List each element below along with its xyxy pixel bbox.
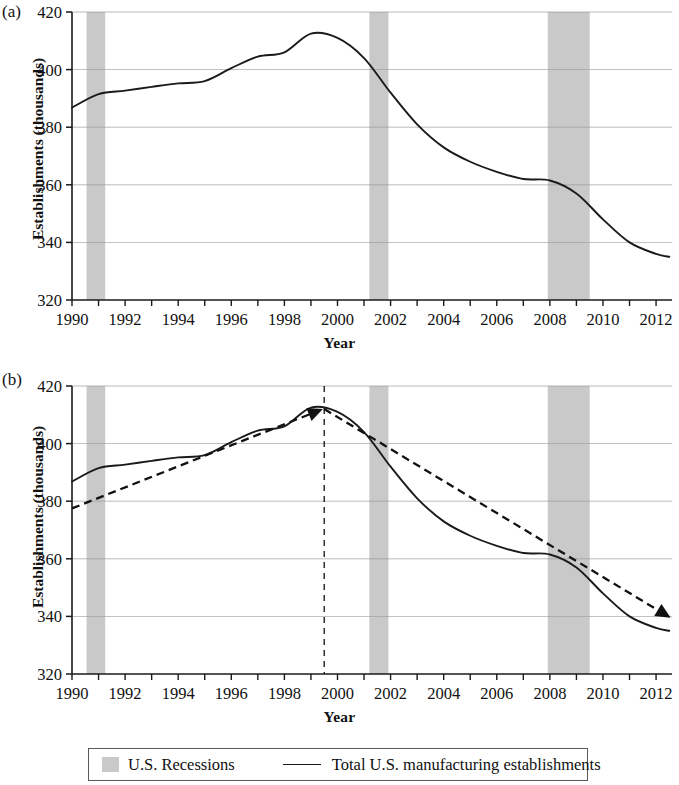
x-tick-label: 1990 [56, 310, 89, 329]
y-tick-label: 320 [37, 291, 62, 310]
recession-swatch-icon [102, 757, 119, 772]
x-axis-title-b: Year [0, 708, 679, 726]
line-swatch-icon [283, 764, 321, 765]
chart-panel-a: (a) Establishments (thousands) 320340360… [0, 0, 679, 355]
recession-band [87, 386, 106, 674]
x-tick-label: 1996 [215, 684, 248, 703]
x-tick-label: 1990 [56, 684, 89, 703]
y-tick-label: 420 [37, 377, 62, 396]
x-tick-label: 1998 [268, 310, 301, 329]
x-tick-label: 1992 [109, 684, 142, 703]
legend-entry-series: Total U.S. manufacturing establishments [283, 755, 601, 775]
x-tick-label: 1994 [162, 684, 195, 703]
recession-band [369, 12, 388, 300]
y-tick-label: 320 [37, 665, 62, 684]
y-tick-label: 420 [37, 3, 62, 22]
trend-arrow-line [72, 413, 313, 508]
x-tick-label: 1994 [162, 310, 195, 329]
x-tick-label: 2004 [427, 684, 460, 703]
x-tick-label: 2002 [374, 310, 407, 329]
x-tick-label: 2010 [586, 310, 619, 329]
x-tick-label: 2012 [640, 310, 673, 329]
chart-panel-b: (b) Establishments (thousands) 320340360… [0, 358, 679, 730]
y-tick-label: 400 [37, 61, 62, 80]
plot-area-a: 3203403603804004201990199219941996199820… [0, 0, 679, 330]
x-tick-label: 1998 [268, 684, 301, 703]
trend-arrow-head [654, 604, 670, 618]
plot-area-b: 3203403603804004201990199219941996199820… [0, 358, 679, 703]
legend-label-recessions: U.S. Recessions [128, 755, 235, 775]
x-tick-label: 2002 [374, 684, 407, 703]
legend-entry-recessions: U.S. Recessions [102, 755, 235, 775]
x-tick-label: 2004 [427, 310, 460, 329]
figure: (a) Establishments (thousands) 320340360… [0, 0, 679, 785]
recession-band [548, 386, 590, 674]
y-tick-label: 340 [37, 233, 62, 252]
y-tick-label: 360 [37, 550, 62, 569]
y-tick-label: 340 [37, 607, 62, 626]
y-tick-label: 380 [37, 118, 62, 137]
x-tick-label: 1996 [215, 310, 248, 329]
x-tick-label: 2006 [480, 684, 513, 703]
x-tick-label: 2008 [533, 310, 566, 329]
recession-band [87, 12, 106, 300]
x-tick-label: 2008 [533, 684, 566, 703]
x-tick-label: 2000 [321, 684, 354, 703]
legend-label-series: Total U.S. manufacturing establishments [332, 755, 601, 775]
x-axis-title-a: Year [0, 334, 679, 352]
recession-band [548, 12, 590, 300]
x-tick-label: 2010 [586, 684, 619, 703]
chart-legend: U.S. Recessions Total U.S. manufacturing… [88, 748, 588, 781]
x-tick-label: 2000 [321, 310, 354, 329]
y-tick-label: 400 [37, 435, 62, 454]
y-tick-label: 360 [37, 176, 62, 195]
x-tick-label: 1992 [109, 310, 142, 329]
recession-band [369, 386, 388, 674]
x-tick-label: 2006 [480, 310, 513, 329]
x-tick-label: 2012 [640, 684, 673, 703]
y-tick-label: 380 [37, 492, 62, 511]
